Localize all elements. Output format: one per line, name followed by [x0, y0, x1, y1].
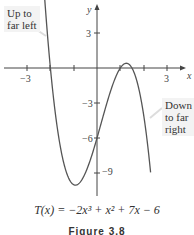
function-curve: [41, 0, 151, 185]
callout-line: Down: [165, 99, 193, 111]
x-axis-arrow-icon: [180, 66, 186, 71]
y-tick-label: −6: [82, 133, 93, 144]
callout-line: Up to: [7, 7, 37, 19]
y-tick-label: 3: [86, 28, 91, 39]
y-tick-label: −9: [102, 166, 113, 177]
callout-up-to-far-left: Up to far left: [4, 6, 40, 32]
x-axis-label: x: [186, 70, 192, 81]
callout-line: to far: [165, 111, 193, 123]
y-axis-label: y: [86, 4, 92, 15]
callout-line: right: [165, 123, 193, 135]
figure-label: Figure 3.8: [0, 226, 194, 235]
callout-right-leader: [150, 108, 162, 118]
x-tick-label: 3: [164, 73, 169, 84]
callout-down-to-far-right: Down to far right: [162, 98, 194, 136]
x-tick-label: −3: [20, 73, 31, 84]
y-axis-arrow-icon: [95, 4, 100, 10]
callout-line: far left: [7, 19, 37, 31]
y-tick-label: −3: [82, 98, 93, 109]
function-formula: T(x) = −2x³ + x² + 7x − 6: [0, 203, 194, 218]
